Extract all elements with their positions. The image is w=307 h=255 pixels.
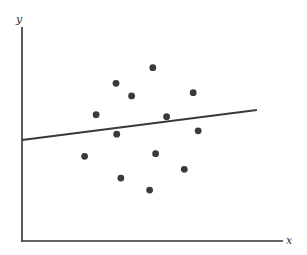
y-axis-label: y	[15, 13, 23, 26]
data-point	[152, 150, 159, 157]
data-point	[118, 175, 125, 182]
data-point	[81, 153, 88, 160]
data-point	[195, 127, 202, 134]
data-point	[163, 113, 170, 120]
x-axis-label: x	[286, 234, 293, 247]
data-point	[149, 64, 156, 71]
data-point	[93, 111, 100, 118]
data-point	[128, 93, 135, 100]
data-point	[181, 166, 188, 173]
data-point	[113, 131, 120, 138]
regression-line	[22, 110, 257, 140]
data-point	[146, 187, 153, 194]
data-points	[81, 64, 201, 193]
data-point	[113, 80, 120, 87]
data-point	[190, 89, 197, 96]
scatter-plot: y x	[0, 0, 307, 255]
